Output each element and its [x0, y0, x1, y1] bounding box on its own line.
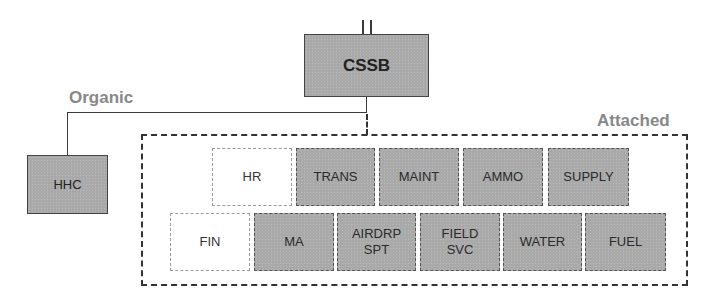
cssb-headquarters-box: CSSB — [304, 34, 429, 97]
attached-unit-supply: SUPPLY — [548, 148, 629, 206]
attached-unit-fuel: FUEL — [585, 213, 666, 271]
organic-group-label: Organic — [69, 88, 133, 108]
supply-label: SUPPLY — [563, 169, 613, 185]
attached-group-label: Attached — [597, 111, 670, 131]
attached-unit-maint: MAINT — [379, 148, 459, 206]
attached-unit-field-service: FIELD SVC — [420, 213, 500, 271]
hhc-label: HHC — [53, 177, 81, 192]
trans-label: TRANS — [313, 169, 357, 185]
ma-label: MA — [284, 234, 304, 250]
maint-label: MAINT — [399, 169, 439, 185]
airdrop-support-label: AIRDRP SPT — [352, 226, 401, 258]
hhc-connector — [67, 112, 68, 155]
cssb-label: CSSB — [343, 56, 390, 76]
attached-unit-airdrop-support: AIRDRP SPT — [337, 213, 416, 271]
fuel-label: FUEL — [609, 234, 642, 250]
attached-unit-ammo: AMMO — [463, 148, 543, 206]
echelon-marker-bar-2 — [370, 20, 372, 34]
fin-label: FIN — [200, 234, 221, 250]
water-label: WATER — [520, 234, 566, 250]
attached-dashed-connector — [366, 114, 368, 135]
attached-unit-water: WATER — [503, 213, 582, 271]
field-service-label: FIELD SVC — [442, 226, 479, 258]
echelon-marker-bar-1 — [362, 20, 364, 34]
attached-unit-ma: MA — [254, 213, 334, 271]
attached-unit-trans: TRANS — [296, 148, 375, 206]
attached-unit-hr: HR — [212, 148, 292, 206]
ammo-label: AMMO — [483, 169, 523, 185]
organic-horizontal-line — [67, 112, 367, 113]
hr-label: HR — [243, 169, 262, 185]
hhc-unit-box: HHC — [27, 155, 108, 214]
attached-unit-fin: FIN — [170, 213, 250, 271]
cssb-organic-connector — [366, 97, 367, 113]
